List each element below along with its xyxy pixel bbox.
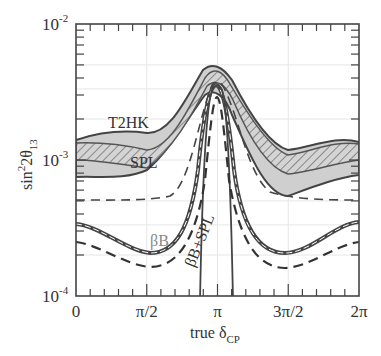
label-t2hk: T2HK — [108, 114, 149, 131]
label-spl: SPL — [130, 154, 158, 171]
y-tick-labels: 10-2 10-3 10-4 — [42, 12, 69, 306]
svg-text:π/2: π/2 — [136, 302, 158, 321]
y-axis-label: sin22θ13 — [15, 139, 39, 190]
svg-text:10-4: 10-4 — [42, 284, 69, 306]
x-tick-labels: 0 π/2 π 3π/2 2π — [72, 302, 368, 321]
svg-text:10-3: 10-3 — [42, 148, 69, 170]
sensitivity-chart: 10-2 10-3 10-4 0 π/2 π 3π/2 2π true δCP … — [0, 0, 381, 356]
x-axis-label: true δCP — [190, 324, 240, 345]
svg-text:3π/2: 3π/2 — [273, 302, 303, 321]
svg-text:π: π — [213, 302, 222, 321]
label-bb: βB — [150, 232, 169, 250]
svg-text:0: 0 — [72, 302, 81, 321]
svg-text:2π: 2π — [350, 302, 368, 321]
svg-text:10-2: 10-2 — [42, 12, 68, 34]
